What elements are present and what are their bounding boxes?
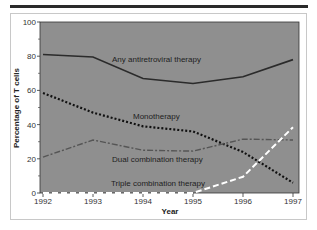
x-tick-label: 1997 xyxy=(284,197,302,206)
x-tick-label: 1996 xyxy=(234,197,252,206)
y-tick-label: 80 xyxy=(27,52,36,61)
label-triple-combination: Triple combination therapy xyxy=(111,179,205,188)
x-tick-label: 1995 xyxy=(184,197,202,206)
line-chart: 020406080100 199219931994199519961997 An… xyxy=(0,0,317,230)
y-tick-label: 40 xyxy=(27,121,36,130)
y-axis-label: Percentage of T cells xyxy=(12,67,21,148)
y-tick-label: 20 xyxy=(27,155,36,164)
y-tick-label: 100 xyxy=(23,18,37,27)
label-monotherapy: Monotherapy xyxy=(133,112,180,121)
y-axis: 020406080100 xyxy=(23,18,40,198)
y-tick-label: 60 xyxy=(27,86,36,95)
x-tick-label: 1994 xyxy=(134,197,152,206)
x-tick-label: 1992 xyxy=(34,197,52,206)
label-dual-combination: Dual combination therapy xyxy=(112,155,203,164)
plot-area xyxy=(40,22,299,193)
x-axis-label: Year xyxy=(162,207,179,216)
label-any-antiretroviral: Any antiretroviral therapy xyxy=(112,55,201,64)
x-tick-label: 1993 xyxy=(84,197,102,206)
x-axis: 199219931994199519961997 xyxy=(34,193,302,206)
